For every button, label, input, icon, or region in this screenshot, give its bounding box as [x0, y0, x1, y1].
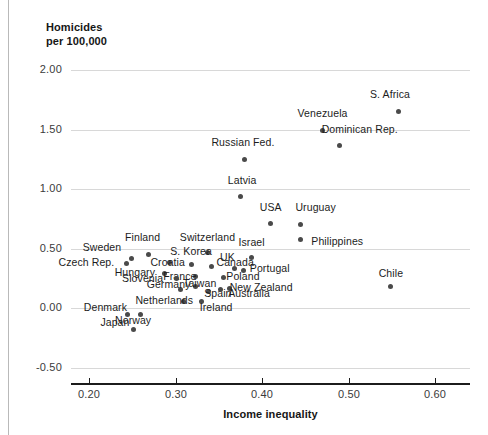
data-point[interactable]: [242, 157, 247, 162]
gridline: [71, 130, 470, 131]
data-point[interactable]: [129, 256, 134, 261]
x-axis-tick-label: 0.30: [153, 388, 199, 400]
data-point-label: Ireland: [200, 301, 233, 313]
chart-page: Homicides per 100,000 2.001.501.000.500.…: [0, 0, 488, 435]
data-point-label: Netherlands: [135, 294, 193, 306]
y-axis-tick-label: 0.50: [16, 242, 62, 254]
data-point-label: Japan: [100, 316, 129, 328]
data-point[interactable]: [388, 284, 393, 289]
y-axis-tick-label: -0.50: [16, 361, 62, 373]
data-point[interactable]: [209, 264, 214, 269]
data-point[interactable]: [298, 237, 303, 242]
data-point-label: Finland: [125, 231, 160, 243]
gridline: [71, 368, 470, 369]
data-point-label: Chile: [379, 267, 403, 279]
gridline: [71, 308, 470, 309]
data-point-label: Russian Fed.: [211, 136, 274, 148]
data-point-label: Philippines: [311, 235, 363, 247]
data-point-label: UK: [220, 251, 235, 263]
data-point-label: Venezuela: [298, 107, 348, 119]
x-axis-tick-label: 0.50: [326, 388, 372, 400]
data-point[interactable]: [238, 194, 243, 199]
y-axis-tick-label: 1.50: [16, 123, 62, 135]
data-point-label: Israel: [238, 236, 264, 248]
data-point-label: Croatia: [150, 256, 185, 268]
y-axis-tick-label: 1.00: [16, 182, 62, 194]
gridline: [71, 189, 470, 190]
x-axis-tick-label: 0.60: [412, 388, 458, 400]
data-point-label: Switzerland: [180, 231, 235, 243]
data-point[interactable]: [396, 109, 401, 114]
y-axis-tick-label: 2.00: [16, 63, 62, 75]
data-point-label: Australia: [228, 287, 270, 299]
data-point-label: USA: [260, 201, 282, 213]
x-axis-tick-label: 0.40: [239, 388, 285, 400]
data-point[interactable]: [221, 275, 226, 280]
data-point[interactable]: [189, 262, 194, 267]
data-point-label: Germany: [147, 278, 191, 290]
data-point[interactable]: [268, 221, 273, 226]
data-point-label: Czech Rep.: [58, 256, 114, 268]
data-point-label: Dominican Rep.: [322, 123, 398, 135]
data-point-label: Uruguay: [295, 201, 335, 213]
data-point-label: S. Africa: [370, 88, 410, 100]
data-point-label: Latvia: [228, 174, 257, 186]
data-point[interactable]: [131, 327, 136, 332]
x-axis-line: [71, 383, 470, 385]
data-point[interactable]: [298, 222, 303, 227]
data-point-label: Denmark: [84, 301, 127, 313]
x-axis-title: Income inequality: [71, 408, 470, 420]
data-point-label: Sweden: [83, 241, 122, 253]
scatter-plot-area: 2.001.501.000.500.00-0.50 0.200.300.400.…: [0, 0, 488, 435]
data-point[interactable]: [337, 143, 342, 148]
y-axis-tick-label: 0.00: [16, 301, 62, 313]
gridline: [71, 70, 470, 71]
x-axis-tick-label: 0.20: [66, 388, 112, 400]
gridline: [71, 249, 470, 250]
